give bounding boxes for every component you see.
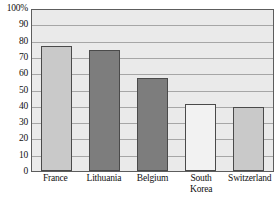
y-axis-tick-label: 30 [19,118,28,128]
x-axis-tick-label: Switzerland [225,173,274,197]
x-axis-tick-label: France [31,173,80,197]
bar[interactable] [89,50,120,171]
y-axis-tick-label: 40 [19,102,28,112]
y-axis-tick-label: 70 [19,53,28,63]
bar-slot [225,10,273,171]
x-axis-label-line: France [31,173,80,184]
x-axis-label-line: South [177,173,226,184]
plot-area [31,9,274,172]
x-axis-tick-label: SouthKorea [177,173,226,197]
bar-chart: 100%9080706050403020100 FranceLithuaniaB… [0,0,277,197]
bar-slot [128,10,176,171]
x-axis-tick-label: Belgium [128,173,177,197]
bar-series [32,10,273,171]
y-axis: 100%9080706050403020100 [0,0,30,197]
bar[interactable] [185,104,216,171]
x-axis-label-line: Korea [177,184,226,195]
bar-slot [177,10,225,171]
x-axis-label-line: Lithuania [80,173,129,184]
y-axis-tick-label: 10 [19,151,28,161]
x-axis: FranceLithuaniaBelgiumSouthKoreaSwitzerl… [31,173,274,197]
x-axis-label-line: Switzerland [225,173,274,184]
y-axis-tick-label: 80 [19,37,28,47]
bar[interactable] [233,107,264,171]
x-axis-tick-label: Lithuania [80,173,129,197]
bar-slot [80,10,128,171]
y-axis-tick-label: 90 [19,21,28,31]
y-axis-tick-label: 60 [19,69,28,79]
y-axis-tick-label: 20 [19,135,28,145]
bar[interactable] [41,46,72,172]
y-axis-tick-label: 50 [19,86,28,96]
x-axis-label-line: Belgium [128,173,177,184]
bar-slot [32,10,80,171]
y-axis-tick-label: 100% [7,4,28,14]
y-axis-tick-label: 0 [23,167,28,177]
bar[interactable] [137,78,168,171]
